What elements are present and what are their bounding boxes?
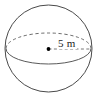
radius-label: 5 m xyxy=(57,38,77,49)
sphere-diagram: 5 m xyxy=(0,0,98,100)
sphere-figure-canvas xyxy=(0,0,98,100)
dashed-ellipse-arc-icon xyxy=(6,33,91,49)
center-dot-icon xyxy=(47,47,51,51)
